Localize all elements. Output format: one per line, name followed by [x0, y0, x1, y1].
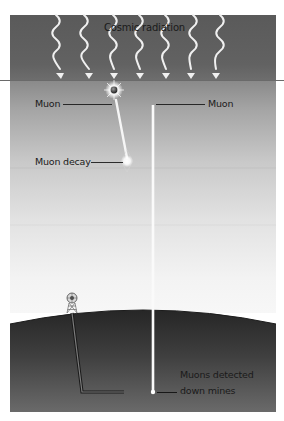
muon-right-label: Muon	[208, 99, 233, 109]
muons-detected-label-line1: Muons detected	[180, 370, 254, 380]
muon-decay-label: Muon decay	[35, 157, 91, 167]
decay-glow-icon	[121, 155, 133, 167]
diagram-canvas	[0, 0, 284, 421]
muon-left-label: Muon	[35, 99, 60, 109]
muon-detection-diagram: Cosmic radiation Muon Muon Muon decay Mu…	[0, 0, 284, 421]
cosmic-radiation-label: Cosmic radiation	[104, 23, 185, 33]
detection-point-icon	[151, 390, 155, 394]
muons-detected-label-line2: down mines	[180, 386, 235, 396]
muon-sphere-icon	[111, 87, 118, 94]
lower-atmosphere	[10, 81, 276, 313]
earth-ground	[10, 310, 276, 412]
muon-particle	[104, 80, 124, 100]
